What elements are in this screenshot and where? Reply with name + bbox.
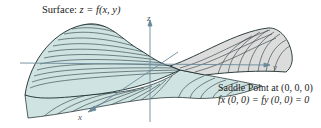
saddle-surface-diagram: Surface: z = f(x, y) z y x Saddle Point … [0,0,321,128]
saddle-point-label: Saddle Point at (0, 0, 0) [218,82,313,93]
partial-derivatives-label: fx (0, 0) = fy (0, 0) = 0 [218,94,309,105]
figure-title: Surface: z = f(x, y) [42,4,121,15]
z-axis-label: z [147,13,151,23]
title-equation: z = f(x, y) [80,4,121,15]
y-axis-label: y [273,62,277,72]
title-prefix: Surface: [42,4,77,15]
x-axis-label: x [78,112,82,122]
